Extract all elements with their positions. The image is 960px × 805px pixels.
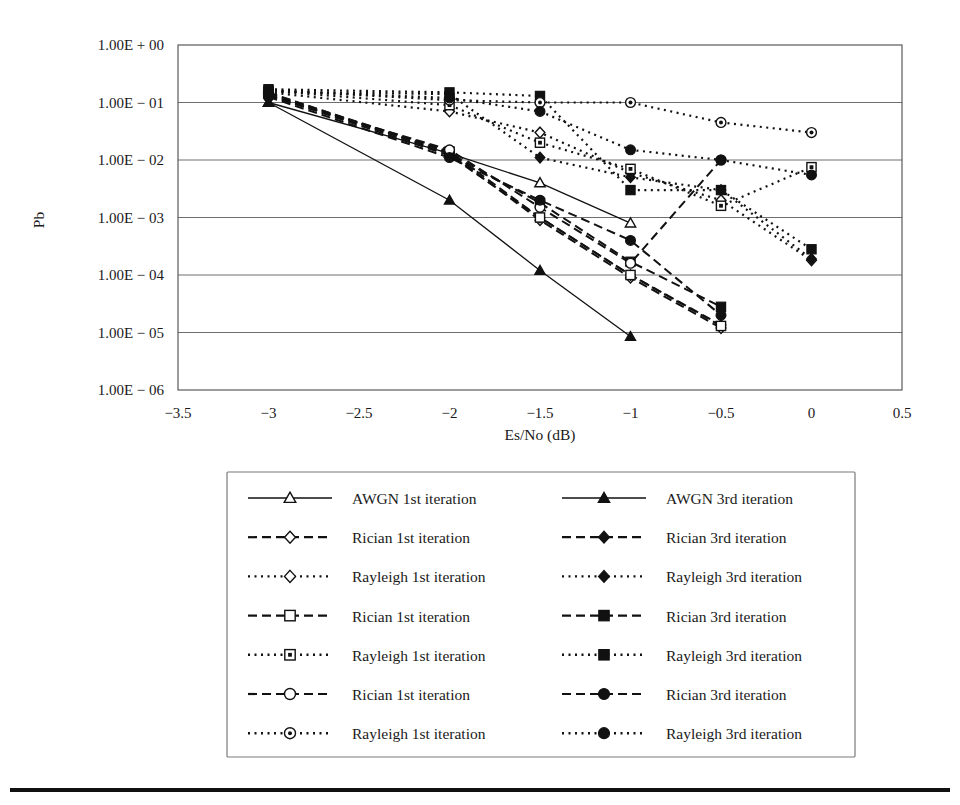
data-point-marker-square-fill xyxy=(626,185,635,194)
data-point-marker-circle-fill xyxy=(445,153,455,163)
data-point-marker-square-open xyxy=(716,321,725,330)
legend-label: Rayleigh 1st iteration xyxy=(352,725,486,742)
y-tick-label: 1.00E − 06 xyxy=(98,382,165,398)
legend-label: Rayleigh 3rd iteration xyxy=(666,568,802,585)
data-point-marker-square-open xyxy=(285,610,295,620)
ber-performance-chart: 1.00E + 001.00E − 011.00E − 021.00E − 03… xyxy=(0,0,960,805)
x-tick-label: −3 xyxy=(261,405,277,421)
x-tick-label: −2 xyxy=(442,405,458,421)
x-tick-label: 0.5 xyxy=(893,405,912,421)
data-point-marker-square-open xyxy=(535,213,544,222)
figure-root: 1.00E + 001.00E − 011.00E − 021.00E − 03… xyxy=(0,0,960,805)
data-point-marker-square-fill xyxy=(599,610,609,620)
data-point-marker-inner xyxy=(288,653,292,657)
legend-label: Rician 3rd iteration xyxy=(666,686,787,703)
y-tick-label: 1.00E − 05 xyxy=(98,325,164,341)
legend-label: Rayleigh 1st iteration xyxy=(352,647,486,664)
y-tick-label: 1.00E − 03 xyxy=(98,210,164,226)
data-point-marker-circle-fill xyxy=(626,145,636,155)
data-point-marker-circle-open xyxy=(626,258,636,268)
data-point-marker-circle-fill xyxy=(599,728,610,739)
y-axis-title: Pb xyxy=(30,212,47,229)
legend-label: Rician 3rd iteration xyxy=(666,529,787,546)
x-tick-label: −2.5 xyxy=(345,405,372,421)
data-point-marker-circle-fill xyxy=(535,195,545,205)
data-point-marker-circle-fill xyxy=(264,86,274,96)
data-point-marker-circle-fill xyxy=(535,107,545,117)
x-tick-label: −1.5 xyxy=(526,405,553,421)
y-tick-label: 1.00E − 02 xyxy=(98,152,164,168)
data-point-marker-inner xyxy=(538,141,542,145)
legend-label: Rician 1st iteration xyxy=(352,608,470,625)
x-tick-label: 0 xyxy=(808,405,816,421)
data-point-marker-circle-fill xyxy=(599,689,610,700)
data-point-marker-square-fill xyxy=(807,245,816,254)
data-point-marker-inner xyxy=(538,101,542,105)
data-point-marker-inner xyxy=(810,165,814,169)
data-point-marker-circle-fill xyxy=(626,235,636,245)
x-axis-title: Es/No (dB) xyxy=(504,426,575,444)
x-tick-label: −1 xyxy=(623,405,639,421)
legend-label: Rayleigh 3rd iteration xyxy=(666,647,802,664)
data-point-marker-inner xyxy=(288,731,292,735)
data-point-marker-circle-fill xyxy=(807,170,817,180)
data-point-marker-circle-fill xyxy=(445,93,455,103)
data-point-marker-square-fill xyxy=(716,185,725,194)
data-point-marker-inner xyxy=(629,167,633,171)
legend-label: AWGN 1st iteration xyxy=(352,490,477,507)
legend-label: Rayleigh 3rd iteration xyxy=(666,725,802,742)
legend-label: Rician 3rd iteration xyxy=(666,608,787,625)
legend-label: AWGN 3rd iteration xyxy=(666,490,793,507)
data-point-marker-circle-open xyxy=(285,689,296,700)
data-point-marker-square-fill xyxy=(599,650,609,660)
data-point-marker-inner xyxy=(719,120,723,124)
data-point-marker-inner xyxy=(810,131,814,135)
data-point-marker-inner xyxy=(719,204,723,208)
y-tick-label: 1.00E − 01 xyxy=(98,95,164,111)
y-tick-label: 1.00E − 04 xyxy=(98,267,165,283)
x-tick-label: −3.5 xyxy=(164,405,191,421)
y-tick-label: 1.00E + 00 xyxy=(98,37,164,53)
data-point-marker-circle-fill xyxy=(716,155,726,165)
legend-label: Rician 1st iteration xyxy=(352,529,470,546)
legend-label: Rician 1st iteration xyxy=(352,686,470,703)
data-point-marker-circle-fill xyxy=(716,310,726,320)
legend-label: Rayleigh 1st iteration xyxy=(352,568,486,585)
x-tick-label: −0.5 xyxy=(707,405,734,421)
data-point-marker-inner xyxy=(629,101,633,105)
data-point-marker-square-open xyxy=(626,270,635,279)
